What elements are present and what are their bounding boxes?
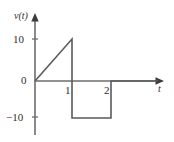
plot-canvas xyxy=(0,0,174,142)
x-tick-label-1: 1 xyxy=(65,85,71,96)
y-tick-label-0: 0 xyxy=(21,75,27,86)
waveform-trace xyxy=(35,39,158,118)
x-tick-label-2: 2 xyxy=(104,85,110,96)
x-axis-label: t xyxy=(158,84,161,94)
y-tick-label-neg10: −10 xyxy=(6,112,23,123)
waveform-figure: v(t) t 10 0 −10 1 2 xyxy=(0,0,174,142)
y-tick-label-10: 10 xyxy=(13,34,24,45)
y-axis-arrow-icon xyxy=(31,13,38,22)
y-axis-label: v(t) xyxy=(14,11,28,21)
